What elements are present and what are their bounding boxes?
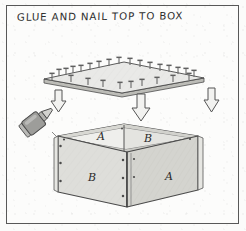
top-panel xyxy=(44,57,204,97)
box-left-edge-thickness xyxy=(54,136,58,192)
open-box: A B B A xyxy=(54,124,203,207)
arrow-center xyxy=(132,94,150,121)
illustration-page: GLUE AND NAIL TOP TO BOX xyxy=(0,0,246,231)
glue-bottle xyxy=(18,103,57,139)
label-inner-left: A xyxy=(96,130,105,143)
label-inner-right: B xyxy=(143,132,152,145)
assembly-illustration: A B B A xyxy=(0,0,246,231)
arrow-left xyxy=(51,90,66,112)
box-right-edge-thickness xyxy=(198,136,203,190)
label-outer-right: A xyxy=(164,170,173,183)
label-outer-left: B xyxy=(87,171,96,184)
arrow-right xyxy=(204,88,219,112)
